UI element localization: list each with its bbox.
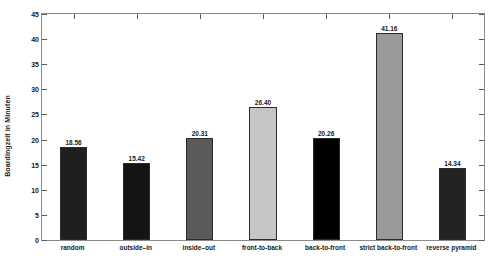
bar-chart-figure: Boardingzeit in Minuten 0510152025303540… (0, 0, 491, 272)
y-tick-label: 10 (31, 186, 39, 193)
bar: 41.16 (376, 33, 403, 240)
bar-value-label: 20.26 (318, 130, 334, 137)
y-tick-mark-right (479, 165, 484, 166)
x-tick-mark-top (200, 14, 201, 19)
y-tick-mark (42, 14, 47, 15)
bar-value-label: 15.42 (129, 155, 145, 162)
y-tick-mark (42, 165, 47, 166)
y-tick-mark (42, 114, 47, 115)
bar-value-label: 41.16 (381, 25, 397, 32)
y-tick-label: 30 (31, 86, 39, 93)
x-category-label: random (61, 244, 85, 251)
bar-value-label: 20.31 (192, 130, 208, 137)
x-tick-mark-top (452, 14, 453, 19)
y-tick-mark-right (479, 240, 484, 241)
x-tick-mark-top (263, 14, 264, 19)
y-tick-mark (42, 215, 47, 216)
bar-value-label: 14.34 (444, 160, 460, 167)
bar: 15.42 (123, 163, 150, 240)
y-tick-label: 0 (35, 237, 39, 244)
y-tick-mark-right (479, 39, 484, 40)
y-tick-mark-right (479, 215, 484, 216)
y-tick-label: 25 (31, 111, 39, 118)
x-tick-mark-top (326, 14, 327, 19)
y-tick-mark (42, 240, 47, 241)
bar-value-label: 18.56 (65, 139, 81, 146)
y-tick-mark-right (479, 89, 484, 90)
y-tick-label: 40 (31, 36, 39, 43)
bar: 20.31 (186, 138, 213, 240)
bar: 14.34 (439, 168, 466, 240)
y-axis-title: Boardingzeit in Minuten (0, 0, 14, 272)
y-tick-mark-right (479, 14, 484, 15)
x-tick-mark-top (74, 14, 75, 19)
bar: 26.40 (249, 107, 276, 240)
y-tick-mark (42, 64, 47, 65)
y-tick-mark-right (479, 114, 484, 115)
x-category-label: strict back-to-front (359, 244, 417, 251)
x-category-label: outside–in (119, 244, 152, 251)
y-tick-mark (42, 140, 47, 141)
bar: 20.26 (313, 138, 340, 240)
y-tick-mark-right (479, 190, 484, 191)
y-tick-mark (42, 190, 47, 191)
y-tick-mark-right (479, 64, 484, 65)
bar-value-label: 26.40 (255, 99, 271, 106)
x-category-label: inside–out (183, 244, 216, 251)
y-tick-label: 35 (31, 61, 39, 68)
bar: 18.56 (60, 147, 87, 240)
x-category-label: reverse pyramid (426, 244, 476, 251)
y-tick-label: 45 (31, 11, 39, 18)
y-tick-mark (42, 89, 47, 90)
y-tick-label: 15 (31, 161, 39, 168)
y-tick-label: 20 (31, 136, 39, 143)
y-tick-mark-right (479, 140, 484, 141)
y-tick-label: 5 (35, 211, 39, 218)
y-tick-mark (42, 39, 47, 40)
x-tick-mark-top (137, 14, 138, 19)
x-category-label: front-to-back (242, 244, 282, 251)
x-tick-mark-top (389, 14, 390, 19)
x-category-label: back-to-front (305, 244, 345, 251)
plot-area: 051015202530354045 18.5615.4220.3126.402… (41, 13, 485, 241)
